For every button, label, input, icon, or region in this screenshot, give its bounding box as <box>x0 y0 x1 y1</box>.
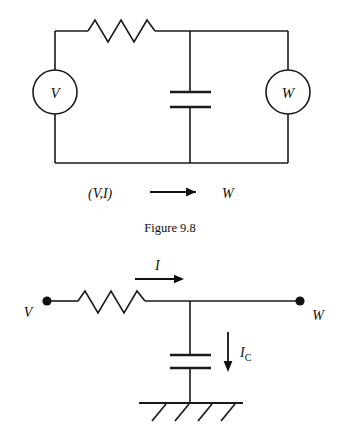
top-circuit-group: V W (V,I) W <box>33 20 310 202</box>
figure-caption: Figure 9.8 <box>144 221 195 235</box>
flow-right-arrow-icon <box>150 188 196 197</box>
capacitor-current-label-sub: C <box>245 352 252 363</box>
flow-source-label: (V,I) <box>88 186 113 202</box>
bottom-circuit-group: V W I <box>24 258 325 421</box>
figure-page: V W (V,I) W Figure 9.8 V <box>0 0 340 433</box>
top-resistor-zigzag <box>88 20 155 42</box>
branch-current-label: I <box>154 258 161 273</box>
branch-current-right-arrow-icon <box>135 275 184 283</box>
ground-hatch-icon <box>139 403 243 421</box>
input-terminal-label: V <box>24 305 34 320</box>
load-meter-label: W <box>282 85 296 101</box>
circuit-figure-svg: V W (V,I) W Figure 9.8 V <box>0 0 340 433</box>
capacitor-current-label: IC <box>239 345 252 363</box>
flow-target-label: W <box>222 186 235 201</box>
capacitor-current-down-arrow-icon <box>224 332 233 372</box>
output-terminal-label: W <box>312 308 325 323</box>
output-terminal-dot <box>295 296 304 305</box>
bottom-resistor-zigzag <box>78 291 145 313</box>
